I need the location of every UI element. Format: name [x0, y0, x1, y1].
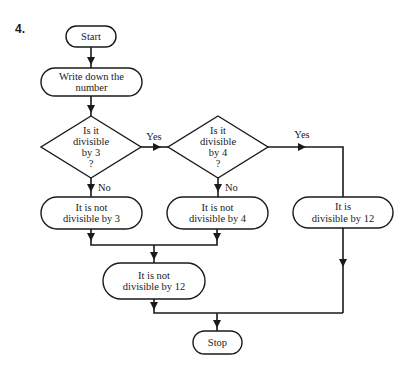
- node-div4: Is itdivisibleby 4?: [168, 116, 268, 178]
- connector-div4-to-notdiv4: No: [214, 178, 238, 197]
- node-notdiv3: It is notdivisible by 3: [41, 197, 142, 229]
- arrowhead-icon: [87, 233, 95, 241]
- node-text: Start: [81, 31, 101, 42]
- node-text: divisible by 12: [312, 213, 374, 224]
- node-notdiv12: It is notdivisible by 12: [103, 263, 205, 299]
- node-text: Stop: [208, 337, 227, 348]
- node-div12: It isdivisible by 12: [293, 197, 393, 228]
- arrowhead-icon: [150, 302, 158, 310]
- connector-write-to-div3: [87, 96, 95, 116]
- connector-merge2-to-stop: [213, 313, 221, 331]
- branch-label: Yes: [294, 129, 309, 140]
- node-text: divisible by 4: [189, 213, 247, 224]
- branch-label: No: [98, 182, 111, 193]
- connector-line: [91, 229, 217, 245]
- node-text: by 3: [82, 147, 100, 158]
- node-text: It is: [335, 201, 351, 212]
- node-text: by 4: [209, 147, 228, 158]
- arrowhead-icon: [298, 143, 306, 151]
- arrowhead-icon: [87, 184, 95, 192]
- connector-notdiv3-to-merge1: [87, 229, 221, 245]
- node-text: ?: [89, 158, 94, 169]
- connector-merge1-to-notdiv12: [150, 245, 158, 263]
- node-text: divisible: [73, 136, 110, 147]
- node-text: divisible by 3: [63, 213, 120, 224]
- connector-div12-to-merge2: [339, 228, 347, 313]
- node-text: divisible: [200, 136, 237, 147]
- arrowhead-icon: [213, 233, 221, 241]
- connector-div4-to-div12: Yes: [268, 129, 343, 197]
- node-stop: Stop: [193, 331, 242, 354]
- node-text: ?: [216, 158, 221, 169]
- node-text: Is it: [210, 125, 226, 136]
- node-text: It is not: [138, 270, 170, 281]
- node-text: Write down the: [59, 71, 124, 82]
- branch-label: No: [225, 182, 238, 193]
- connector-div3-to-div4: Yes: [141, 131, 168, 151]
- node-text: It is not: [201, 202, 233, 213]
- arrowhead-icon: [150, 252, 158, 260]
- connector-line: [154, 299, 343, 313]
- connector-notdiv12-to-merge2: [150, 299, 343, 313]
- arrowhead-icon: [87, 57, 95, 65]
- node-text: It is not: [75, 202, 107, 213]
- node-notdiv4: It is notdivisible by 4: [167, 197, 268, 229]
- connector-line: [268, 147, 343, 197]
- arrowhead-icon: [87, 105, 95, 113]
- connector-start-to-write: [87, 47, 95, 68]
- node-write: Write down thenumber: [41, 68, 142, 96]
- arrowhead-icon: [339, 259, 347, 267]
- node-text: number: [75, 82, 108, 93]
- branch-label: Yes: [146, 131, 161, 142]
- flowchart: YesYesNoNo StartWrite down thenumberIs i…: [0, 0, 413, 370]
- node-div3: Is itdivisibleby 3?: [41, 116, 141, 178]
- node-start: Start: [66, 26, 116, 47]
- node-text: Is it: [83, 125, 99, 136]
- arrowhead-icon: [214, 184, 222, 192]
- node-text: divisible by 12: [123, 281, 185, 292]
- arrowhead-icon: [153, 143, 161, 151]
- arrowhead-icon: [213, 320, 221, 328]
- connector-div3-to-notdiv3: No: [87, 178, 111, 197]
